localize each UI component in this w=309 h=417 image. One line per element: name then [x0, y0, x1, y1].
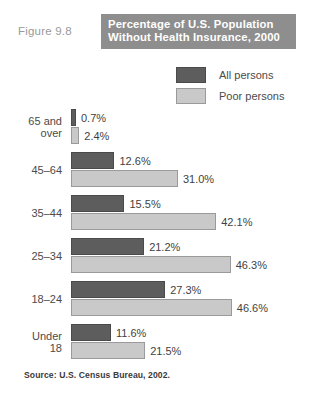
figure-card: Figure 9.8 Percentage of U.S. Population…	[0, 0, 309, 417]
category-label-line-1: Under	[32, 330, 62, 343]
bar-group: 21.2% 46.3%	[71, 237, 309, 275]
category-label-35-44: 35–44	[5, 194, 67, 232]
bar-all-persons	[71, 324, 111, 341]
chart-plot-area: 65 and over 0.7% 2.4% 45–64	[0, 108, 309, 360]
source-note: Source: U.S. Census Bureau, 2002.	[24, 370, 170, 380]
bar-value-all-persons: 15.5%	[129, 198, 160, 210]
category-label-25-34: 25–34	[5, 237, 67, 275]
figure-title-line-1: Percentage of U.S. Population	[108, 18, 296, 31]
bar-group: 15.5% 42.1%	[71, 194, 309, 232]
chart-group-45-64: 45–64 12.6% 31.0%	[0, 151, 309, 189]
bar-poor-persons	[71, 299, 232, 316]
chart-group-under-18: Under 18 11.6% 21.5%	[0, 323, 309, 361]
legend-swatch-all-persons-icon	[176, 67, 206, 83]
chart-group-18-24: 18–24 27.3% 46.6%	[0, 280, 309, 318]
category-label-line-1: 65 and	[28, 115, 62, 128]
bar-all-persons	[71, 238, 144, 255]
bar-value-all-persons: 21.2%	[149, 241, 180, 253]
bar-value-all-persons: 0.7%	[81, 112, 106, 124]
bar-poor-persons	[71, 213, 216, 230]
bar-group: 27.3% 46.6%	[71, 280, 309, 318]
category-label-line-1: 25–34	[31, 250, 62, 263]
bar-all-persons	[71, 109, 76, 126]
bar-value-poor-persons: 21.5%	[150, 345, 181, 357]
legend-item-poor-persons: Poor persons	[176, 86, 306, 105]
category-label-under-18: Under 18	[5, 323, 67, 361]
bar-group: 12.6% 31.0%	[71, 151, 309, 189]
bar-all-persons	[71, 195, 124, 212]
legend-label-all-persons: All persons	[219, 69, 273, 81]
figure-header: Figure 9.8 Percentage of U.S. Population…	[0, 14, 309, 50]
category-label-45-64: 45–64	[5, 151, 67, 189]
title-banner: Percentage of U.S. Population Without He…	[101, 14, 296, 49]
bar-value-poor-persons: 46.3%	[236, 259, 267, 271]
bar-group: 0.7% 2.4%	[71, 108, 309, 146]
category-label-line-2: over	[41, 127, 62, 140]
legend-label-poor-persons: Poor persons	[219, 90, 284, 102]
bar-value-poor-persons: 31.0%	[183, 173, 214, 185]
bar-value-poor-persons: 2.4%	[84, 130, 109, 142]
figure-number-label: Figure 9.8	[18, 25, 72, 37]
bar-poor-persons	[71, 127, 79, 144]
chart-group-25-34: 25–34 21.2% 46.3%	[0, 237, 309, 275]
chart-group-35-44: 35–44 15.5% 42.1%	[0, 194, 309, 232]
bar-all-persons	[71, 152, 114, 169]
bar-value-all-persons: 12.6%	[119, 155, 150, 167]
legend-item-all-persons: All persons	[176, 65, 306, 84]
category-label-line-1: 18–24	[31, 293, 62, 306]
legend-swatch-poor-persons-icon	[176, 88, 206, 104]
chart-group-65-and-over: 65 and over 0.7% 2.4%	[0, 108, 309, 146]
category-label-line-1: 35–44	[31, 207, 62, 220]
figure-title-line-2: Without Health Insurance, 2000	[108, 31, 296, 44]
chart-legend: All persons Poor persons	[176, 65, 306, 107]
category-label-18-24: 18–24	[5, 280, 67, 318]
bar-value-all-persons: 11.6%	[116, 327, 146, 339]
bar-value-poor-persons: 42.1%	[221, 216, 252, 228]
bar-group: 11.6% 21.5%	[71, 323, 309, 361]
bar-poor-persons	[71, 170, 178, 187]
bar-all-persons	[71, 281, 165, 298]
bar-value-all-persons: 27.3%	[170, 284, 201, 296]
bar-poor-persons	[71, 256, 231, 273]
category-label-line-2: 18	[50, 342, 62, 355]
bar-value-poor-persons: 46.6%	[237, 302, 268, 314]
bar-poor-persons	[71, 342, 145, 359]
category-label-65-and-over: 65 and over	[5, 108, 67, 146]
category-label-line-1: 45–64	[31, 164, 62, 177]
